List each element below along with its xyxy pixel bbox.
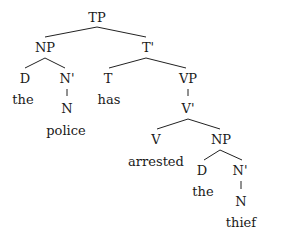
terminal-word-police: police — [46, 124, 85, 138]
node-label-d1: D — [20, 72, 30, 86]
terminal-word-the2: the — [192, 185, 213, 199]
tree-edge-np2-d2 — [204, 150, 220, 160]
node-label-np1: NP — [35, 41, 55, 55]
tree-edge-np2-n2bar — [220, 150, 242, 160]
node-label-np2: NP — [211, 133, 231, 147]
node-label-vbar: V' — [182, 102, 195, 116]
tree-edge-np1-n1bar — [45, 58, 65, 68]
node-label-v: V — [151, 133, 160, 147]
terminal-word-has: has — [98, 93, 121, 107]
terminal-word-thief: thief — [226, 216, 256, 230]
tree-edge-t1-t — [109, 58, 146, 68]
terminal-word-the1: the — [12, 93, 33, 107]
node-label-n2bar: N' — [233, 164, 248, 178]
node-label-n2: N — [235, 195, 246, 209]
terminal-word-arrested: arrested — [128, 155, 184, 169]
node-label-n1: N — [61, 102, 72, 116]
tree-edge-t1-vp — [146, 58, 186, 68]
tree-edge-tp-np1 — [45, 27, 97, 37]
node-label-tp: TP — [88, 11, 105, 25]
node-label-vp: VP — [179, 72, 197, 86]
node-label-t: T — [104, 72, 113, 86]
node-label-n1bar: N' — [60, 72, 75, 86]
tree-edge-np1-d1 — [25, 58, 45, 68]
node-label-d2: D — [197, 164, 207, 178]
tree-edge-tp-t1 — [97, 27, 146, 37]
tree-edge-vbar-np2 — [188, 119, 220, 129]
tree-edge-vbar-v — [157, 119, 188, 129]
syntax-tree-diagram: TPNPT'DN'theNpoliceThasVPV'VarrestedNPDt… — [0, 0, 282, 245]
node-label-t1: T' — [142, 41, 154, 55]
